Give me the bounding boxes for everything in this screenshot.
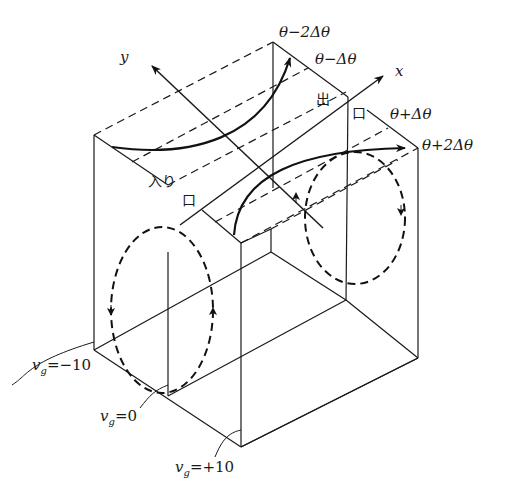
vortex-left xyxy=(111,227,213,393)
vg-plus10-label: vg=+10 xyxy=(175,458,234,478)
y-axis xyxy=(152,66,323,228)
theta-minus-1-label: θ−Δθ xyxy=(315,50,356,68)
x-axis-label: x xyxy=(395,62,404,80)
theta-minus-2-label: θ−2Δθ xyxy=(279,23,330,41)
theta-plus-2-label: θ+2Δθ xyxy=(422,136,473,154)
theta-plus-1-label: θ+Δθ xyxy=(390,105,431,123)
labels: y x θ−2Δθ θ−Δθ θ+Δθ θ+2Δθ 入り 口 出 口 vg=−1… xyxy=(12,23,473,478)
y-axis-label: y xyxy=(119,48,129,66)
vg-zero-label: vg=0 xyxy=(100,407,137,427)
vg-minus10-label: vg=−10 xyxy=(32,356,91,376)
outlet-label-2: 口 xyxy=(352,105,366,121)
flow-diagram: y x θ−2Δθ θ−Δθ θ+Δθ θ+2Δθ 入り 口 出 口 vg=−1… xyxy=(0,0,509,498)
inlet-label-2: 口 xyxy=(182,192,196,208)
vortex-right xyxy=(305,152,405,284)
box-edges xyxy=(94,42,418,447)
dashed-guides xyxy=(94,42,418,243)
outlet-label-1: 出 xyxy=(316,91,330,107)
inlet-label-1: 入り xyxy=(148,173,176,189)
flow-to-theta-minus xyxy=(112,58,290,150)
flow-streamlines xyxy=(112,58,405,235)
